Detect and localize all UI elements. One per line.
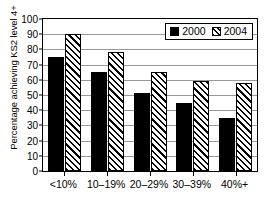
x-tick-label-40%+: 40%+ (221, 178, 248, 190)
legend-entry-2000: 2000 (170, 26, 205, 37)
bar-2000-10–19% (91, 72, 107, 171)
y-tick-mark (39, 64, 43, 65)
x-tick-mark (193, 171, 194, 176)
x-tick-mark (64, 171, 65, 176)
bar-2004-10–19% (108, 52, 124, 171)
y-tick-label: 80 (4, 44, 38, 55)
bar-2004-20–29% (151, 72, 167, 171)
legend-label-2004: 2004 (224, 26, 247, 37)
y-tick-mark (39, 171, 43, 172)
y-tick-label: 100 (4, 14, 38, 25)
y-tick-label: 50 (4, 90, 38, 101)
plot-inner: 0102030405060708090100 (43, 19, 257, 171)
bar-2004-30–39% (193, 81, 209, 171)
y-tick-mark (39, 19, 43, 20)
legend-swatch-2000-icon (170, 27, 179, 36)
bar-2000-40%+ (219, 118, 235, 171)
plot-area: 0102030405060708090100 2000 2004 (42, 18, 258, 172)
x-tick-label-10–19%: 10–19% (87, 178, 126, 190)
y-tick-label: 0 (4, 166, 38, 177)
y-tick-mark (39, 49, 43, 50)
x-tick-label-30–39%: 30–39% (173, 178, 212, 190)
legend-entry-2004: 2004 (212, 26, 247, 37)
x-tick-label-<10%: <10% (50, 178, 77, 190)
y-tick-label: 70 (4, 59, 38, 70)
x-tick-label-20–29%: 20–29% (130, 178, 169, 190)
bar-2000-20–29% (134, 93, 150, 171)
y-tick-mark (39, 95, 43, 96)
bar-chart: Percentage achieving KS2 level 4+ 010203… (0, 0, 266, 197)
y-tick-label: 30 (4, 120, 38, 131)
x-tick-mark (150, 171, 151, 176)
y-tick-label: 40 (4, 105, 38, 116)
legend-swatch-2004-icon (212, 27, 221, 36)
bar-2000-<10% (48, 57, 64, 171)
y-tick-mark (39, 34, 43, 35)
bar-2004-<10% (65, 34, 81, 171)
legend: 2000 2004 (165, 23, 253, 40)
bar-2004-40%+ (236, 83, 252, 171)
x-tick-mark (236, 171, 237, 176)
y-tick-mark (39, 79, 43, 80)
y-tick-label: 60 (4, 74, 38, 85)
y-tick-label: 90 (4, 29, 38, 40)
x-tick-mark (107, 171, 108, 176)
bar-2000-30–39% (176, 103, 192, 171)
y-tick-label: 20 (4, 135, 38, 146)
y-tick-mark (39, 125, 43, 126)
y-tick-label: 10 (4, 150, 38, 161)
y-tick-mark (39, 140, 43, 141)
y-tick-mark (39, 155, 43, 156)
y-tick-mark (39, 110, 43, 111)
legend-label-2000: 2000 (182, 26, 205, 37)
